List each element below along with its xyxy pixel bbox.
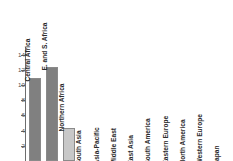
bar-group: Middle East bbox=[115, 0, 127, 161]
plot-area: Central AfricaE. and S. AfricaNorthern A… bbox=[26, 0, 233, 161]
bar-group: Northern Africa bbox=[63, 0, 75, 161]
bar-chart: 2468101214 Central AfricaE. and S. Afric… bbox=[0, 0, 233, 161]
y-axis-tick-label: 4 bbox=[9, 128, 25, 134]
bar-group: East Asia bbox=[132, 0, 144, 161]
y-axis-tick: 2 bbox=[0, 146, 25, 147]
category-label: Central Africa bbox=[25, 39, 32, 82]
bar-group: Central Africa bbox=[29, 0, 41, 161]
bar-group: Japan bbox=[218, 0, 230, 161]
category-label: South America bbox=[145, 118, 152, 161]
y-axis-tick: 12 bbox=[0, 70, 25, 71]
bar-group: Western Europe bbox=[201, 0, 213, 161]
category-label: Western Europe bbox=[197, 114, 204, 161]
bar-group: E. and S. Africa bbox=[46, 0, 58, 161]
y-axis-tick-label: 8 bbox=[9, 97, 25, 103]
bar-group: North America bbox=[184, 0, 196, 161]
bar-group: South Asia bbox=[80, 0, 92, 161]
bar-group: South America bbox=[149, 0, 161, 161]
y-axis-tick: 6 bbox=[0, 115, 25, 116]
category-label: Asia-Pacific bbox=[94, 127, 101, 161]
category-label: Japan bbox=[214, 146, 221, 161]
bar[interactable] bbox=[29, 78, 41, 161]
bar-group: Eastern Europe bbox=[167, 0, 179, 161]
category-label: Eastern Europe bbox=[163, 116, 170, 161]
y-axis-tick-label: 12 bbox=[9, 67, 25, 73]
category-label: E. and S. Africa bbox=[42, 22, 49, 70]
y-axis-tick: 4 bbox=[0, 131, 25, 132]
category-label: South Asia bbox=[76, 130, 83, 161]
bar[interactable] bbox=[46, 67, 58, 161]
bar-group: Asia-Pacific bbox=[98, 0, 110, 161]
category-label: Middle East bbox=[111, 128, 118, 161]
category-label: North America bbox=[180, 119, 187, 161]
y-axis-tick: 14 bbox=[0, 55, 25, 56]
y-axis-tick-label: 2 bbox=[9, 143, 25, 149]
y-axis-tick: 8 bbox=[0, 100, 25, 101]
y-axis-tick-label: 14 bbox=[9, 52, 25, 58]
y-axis-tick: 10 bbox=[0, 85, 25, 86]
category-label: East Asia bbox=[128, 135, 135, 161]
category-label: Northern Africa bbox=[59, 84, 66, 132]
y-axis-tick-label: 6 bbox=[9, 112, 25, 118]
bar[interactable] bbox=[63, 128, 75, 161]
y-axis-tick-label: 10 bbox=[9, 82, 25, 88]
